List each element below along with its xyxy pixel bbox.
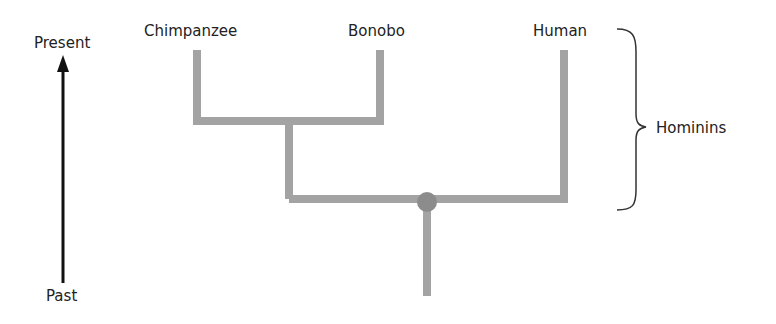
taxon-chimpanzee: Chimpanzee — [144, 24, 237, 39]
present-label: Present — [34, 36, 90, 51]
hominins-label: Hominins — [656, 121, 726, 136]
phylogeny-diagram: Present Past Chimpanzee Bonobo Human Hom… — [0, 0, 776, 324]
tree-branches — [197, 50, 564, 296]
tree-svg — [0, 0, 776, 324]
taxon-human: Human — [533, 24, 587, 39]
hominins-bracket-icon — [617, 29, 646, 210]
taxon-bonobo: Bonobo — [348, 24, 405, 39]
ancestor-node-icon — [417, 192, 437, 212]
branch-chimpanzee — [197, 50, 380, 121]
past-label: Past — [46, 289, 77, 304]
time-arrow-icon — [57, 55, 69, 283]
